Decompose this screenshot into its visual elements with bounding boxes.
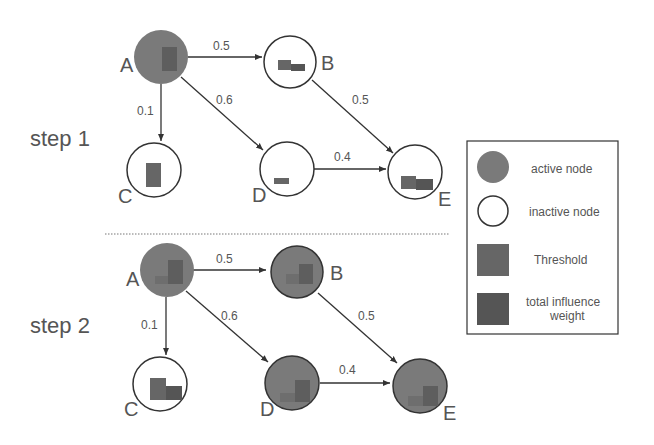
node-b-step1: B: [264, 36, 334, 88]
edge-weight-b-e: 0.5: [358, 309, 375, 323]
step-2-graph: step 2 0.5 0.1 0.6 0.5 0.4 A B C: [30, 243, 456, 424]
node-b-step2: B: [271, 246, 343, 298]
node-c-step1: C: [118, 143, 181, 207]
edge-a-d: [186, 291, 268, 362]
edge-weight-a-c: 0.1: [141, 318, 158, 332]
legend-inactive-node: inactive node: [529, 205, 600, 219]
node-c-step2: C: [124, 357, 187, 420]
node-label-a: A: [120, 54, 134, 76]
legend: active node inactive node Threshold tota…: [467, 141, 618, 334]
node-label-c: C: [118, 185, 132, 207]
edge-weight-a-c: 0.1: [137, 104, 154, 118]
node-label-c: C: [124, 398, 138, 420]
node-label-b: B: [321, 52, 334, 74]
edge-weight-a-b: 0.5: [213, 39, 230, 53]
node-label-b: B: [330, 262, 343, 284]
influence-weight-icon: [477, 293, 509, 325]
influence-diagram: step 1 0.5 0.1 0.6 0.5 0.4 A B C: [0, 0, 654, 445]
edge-weight-a-b: 0.5: [216, 252, 233, 266]
step-1-graph: step 1 0.5 0.1 0.6 0.5 0.4 A B C: [30, 30, 451, 210]
step-2-label: step 2: [30, 313, 90, 338]
step-1-label: step 1: [30, 126, 90, 151]
edge-weight-a-d: 0.6: [216, 93, 233, 107]
node-d-step1: D: [252, 142, 314, 206]
edge-weight-a-d: 0.6: [221, 309, 238, 323]
node-label-a: A: [126, 268, 140, 290]
node-label-e: E: [438, 188, 451, 210]
node-e-step2: E: [393, 359, 456, 424]
edge-b-e: [312, 80, 393, 153]
edge-weight-d-e: 0.4: [334, 150, 351, 164]
node-label-d: D: [260, 398, 274, 420]
node-label-e: E: [443, 402, 456, 424]
edge-a-d: [181, 77, 263, 150]
edge-weight-d-e: 0.4: [339, 363, 356, 377]
legend-influence-line1: total influence: [526, 295, 600, 309]
node-label-d: D: [252, 184, 266, 206]
node-e-step1: E: [388, 145, 451, 210]
legend-influence-line2: weight: [549, 309, 585, 323]
legend-threshold: Threshold: [534, 253, 587, 267]
active-node-icon: [477, 151, 509, 183]
legend-active-node: active node: [531, 162, 593, 176]
edge-b-e: [318, 293, 397, 363]
node-a-step2: A: [126, 243, 194, 297]
node-d-step2: D: [260, 356, 319, 420]
threshold-icon: [477, 244, 509, 276]
inactive-node-icon: [478, 196, 508, 226]
node-a-step1: A: [120, 30, 188, 84]
edge-weight-b-e: 0.5: [352, 93, 369, 107]
